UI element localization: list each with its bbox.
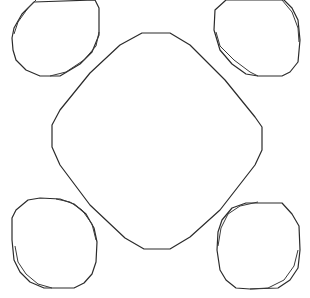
oval-bottom-left-outer <box>12 198 97 288</box>
oval-top-right-outer <box>214 0 300 76</box>
oval-top-right-inner <box>216 0 299 76</box>
oval-bottom-right-outer <box>217 203 300 289</box>
oval-bottom-right <box>217 202 300 289</box>
center-rounded-square <box>52 33 262 249</box>
oval-bottom-left-inner <box>15 199 96 288</box>
oval-top-right <box>214 0 300 76</box>
oval-bottom-left <box>12 198 97 288</box>
oval-top-left-inner <box>14 0 99 76</box>
diagram-svg <box>0 0 310 298</box>
diagram-canvas <box>0 0 310 298</box>
oval-bottom-right-inner <box>218 202 298 289</box>
oval-top-left <box>12 0 99 76</box>
